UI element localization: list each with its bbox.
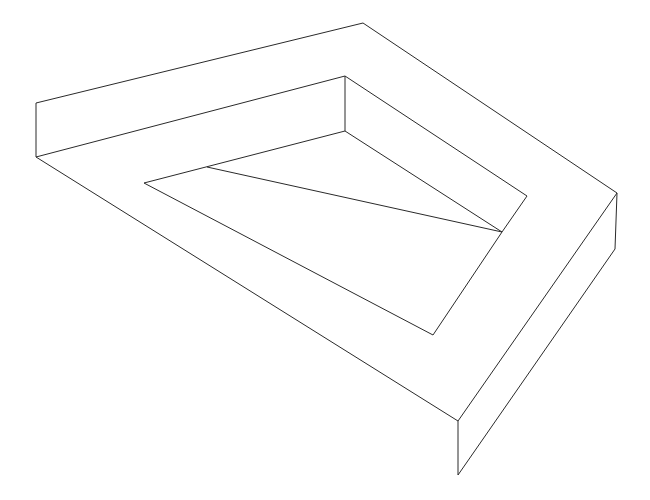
bottom-right-edge — [458, 249, 615, 475]
inner-bottom-right-edge — [433, 232, 502, 335]
inner-right-lower-edge — [345, 131, 502, 232]
inner-right-short-edge — [502, 196, 527, 232]
inner-top-right-edge — [345, 76, 527, 196]
frame-drawing — [0, 0, 650, 500]
right-vertical-edge — [615, 193, 617, 249]
diagram-canvas — [0, 0, 650, 500]
inner-divider — [207, 167, 502, 232]
left-bottom-edge — [36, 76, 345, 157]
inner-left-diagonal — [144, 183, 433, 335]
outer-top-left-edge — [36, 23, 363, 103]
left-long-diagonal — [36, 157, 458, 421]
